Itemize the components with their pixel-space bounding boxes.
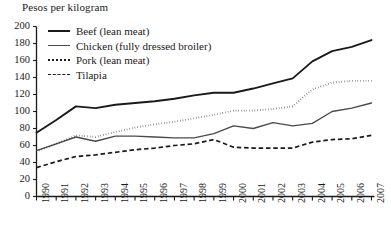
legend-label-beef-lean-meat: Beef (lean meat) [76,24,149,38]
legend-label-tilapia: Tilapia [76,68,107,82]
series-line-tilapia [37,135,372,167]
plot-area [0,0,391,240]
legend-swatch-tilapia [48,74,70,75]
legend-label-pork-lean-meat: Pork (lean meat) [76,53,149,67]
legend-swatch-pork-lean-meat [48,59,70,61]
legend-swatch-chicken-fully-dressed-broiler [48,45,70,46]
chart-container: Pesos per kilogram 020406080100120140160… [0,0,391,240]
legend-label-chicken-fully-dressed-broiler: Chicken (fully dressed broiler) [76,39,211,53]
series-line-chicken-fully-dressed-broiler [37,103,372,151]
legend-swatch-beef-lean-meat [48,30,70,32]
